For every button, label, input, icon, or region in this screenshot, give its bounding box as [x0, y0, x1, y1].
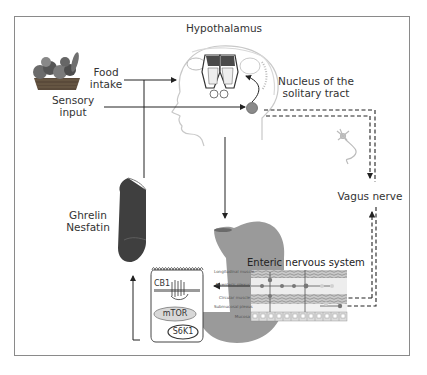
nts-label: Nucleus of the solitary tract [268, 75, 364, 99]
layer-longitudinal-muscle-label: Longitudinal muscle [214, 270, 250, 275]
cell-to-ghrelin-arrow [133, 276, 140, 340]
vagal-neuron-icon [337, 129, 356, 164]
nts-node-icon [247, 103, 258, 114]
food-basket-icon [33, 52, 80, 90]
vagus-nerve-label: Vagus nerve [336, 190, 404, 202]
mtor-label: mTOR [156, 309, 194, 318]
food-intake-line2: intake [86, 78, 126, 90]
layer-myenteric-plexus-label: Myenteric plexus [214, 283, 250, 288]
enteric-nervous-system-label: Enteric nervous system [247, 257, 365, 269]
sensory-input-line1: Sensory [48, 94, 98, 106]
s6k1-label: S6K1 [168, 327, 198, 336]
sensory-input-line2: input [48, 106, 98, 118]
layer-submucosal-plexus-label: Submucosal plexus [214, 305, 250, 310]
nesfatin-line: Nesfatin [64, 221, 112, 233]
food-intake-line1: Food [86, 66, 126, 78]
stomach-tissue-icon [118, 178, 146, 262]
gut-wall-section [251, 270, 347, 321]
hypothalamus-icon [187, 55, 267, 98]
ghrelin-line: Ghrelin [64, 209, 112, 221]
ghrelin-nesfatin-label: Ghrelin Nesfatin [64, 209, 112, 233]
hypothalamus-label: Hypothalamus [175, 22, 273, 34]
cb1-label: CB1 [152, 279, 172, 288]
layer-mucosa-label: Mucosa [214, 315, 250, 320]
food-intake-label: Food intake [86, 66, 126, 90]
nts-to-hypothalamus-arrow [246, 76, 259, 102]
nts-line1: Nucleus of the [268, 75, 364, 87]
nts-line2: solitary tract [268, 87, 364, 99]
layer-circular-muscle-label: Circular muscle [214, 296, 250, 301]
sensory-input-label: Sensory input [48, 94, 98, 118]
